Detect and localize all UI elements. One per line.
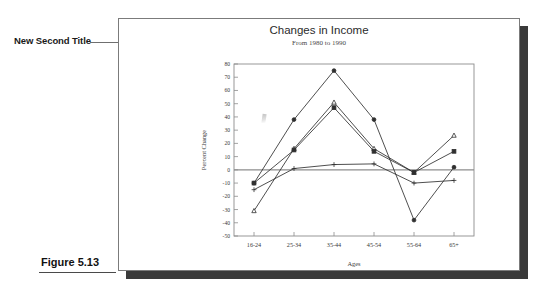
x-axis-tick-label: 45-54 xyxy=(367,241,381,248)
y-axis-tick-label: 0 xyxy=(227,167,230,173)
y-axis-tick-label: 80 xyxy=(224,61,230,67)
y-axis-tick-label: 40 xyxy=(224,114,230,120)
data-point-marker xyxy=(252,187,257,192)
x-axis-tick-label: 35-44 xyxy=(327,241,341,248)
data-point-marker xyxy=(332,69,336,73)
data-point-marker xyxy=(452,149,456,153)
y-axis-tick-label: 60 xyxy=(224,87,230,93)
y-axis-tick-label: 70 xyxy=(224,74,230,80)
chart-subtitle: From 1980 to 1990 xyxy=(118,39,520,47)
x-axis-tick-label: 25-34 xyxy=(287,241,301,248)
data-point-marker xyxy=(252,181,256,185)
data-point-marker xyxy=(412,181,417,186)
x-axis-tick-label: 55-64 xyxy=(407,241,421,248)
data-point-marker xyxy=(332,100,336,104)
line-chart: 80706050403020100-10-20-30-40-5016-2425-… xyxy=(196,52,486,277)
data-point-marker xyxy=(412,171,416,175)
series-line xyxy=(254,71,454,221)
y-axis-tick-label: 10 xyxy=(224,154,230,160)
series-line xyxy=(254,108,454,183)
data-point-marker xyxy=(452,133,456,137)
data-point-marker xyxy=(292,148,296,152)
data-point-marker xyxy=(332,106,336,110)
x-axis-title: Ages xyxy=(347,260,361,267)
y-axis-tick-label: 30 xyxy=(224,127,230,133)
y-axis-tick-label: -40 xyxy=(223,220,231,226)
callout-label: New Second Title xyxy=(14,35,91,46)
y-axis-tick-label: -10 xyxy=(223,180,231,186)
series-line xyxy=(254,164,454,190)
figure-caption-rule xyxy=(39,272,116,273)
figure-caption: Figure 5.13 xyxy=(41,256,99,268)
y-axis-tick-label: 20 xyxy=(224,140,230,146)
data-point-marker xyxy=(452,178,457,183)
chart-title: Changes in Income xyxy=(118,24,520,36)
y-axis-tick-label: 50 xyxy=(224,101,230,107)
figure-page: New Second Title Changes in Income From … xyxy=(0,0,559,296)
data-point-marker xyxy=(372,118,376,122)
x-axis-tick-label: 16-24 xyxy=(247,241,261,248)
y-axis-tick-label: -50 xyxy=(223,233,231,239)
chart-canvas: 80706050403020100-10-20-30-40-5016-2425-… xyxy=(196,52,486,277)
data-point-marker xyxy=(372,149,376,153)
data-point-marker xyxy=(452,165,456,169)
y-axis-tick-label: -20 xyxy=(223,193,231,199)
y-axis-tick-label: -30 xyxy=(223,207,231,213)
data-point-marker xyxy=(332,162,337,167)
y-axis-title: Percent Change xyxy=(200,130,207,170)
data-point-marker xyxy=(292,118,296,122)
data-point-marker xyxy=(412,218,416,222)
series-line xyxy=(254,102,454,210)
data-point-marker xyxy=(372,161,377,166)
x-axis-tick-label: 65+ xyxy=(449,241,459,248)
